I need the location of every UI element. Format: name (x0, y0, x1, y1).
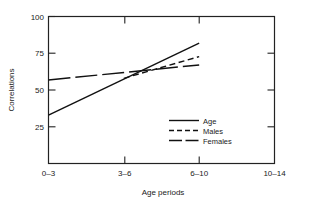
y-tick-label-75: 75 (35, 49, 44, 58)
correlations-by-age-period-chart: 100 75 50 25 0–3 3–6 6–10 10–14 Age peri… (0, 0, 320, 204)
y-tick-label-50: 50 (35, 86, 44, 95)
legend-label-age: Age (203, 117, 216, 126)
x-tick-label-10-14: 10–14 (263, 169, 286, 178)
y-axis-title: Correlations (7, 68, 16, 111)
x-tick-label-3-6: 3–6 (118, 169, 132, 178)
x-tick-label-6-10: 6–10 (190, 169, 208, 178)
x-axis-title: Age periods (142, 188, 185, 197)
legend-label-females: Females (203, 137, 232, 146)
x-tick-label-0-3: 0–3 (42, 169, 56, 178)
y-tick-label-25: 25 (35, 123, 44, 132)
legend-label-males: Males (203, 127, 223, 136)
y-tick-label-100: 100 (31, 13, 45, 22)
